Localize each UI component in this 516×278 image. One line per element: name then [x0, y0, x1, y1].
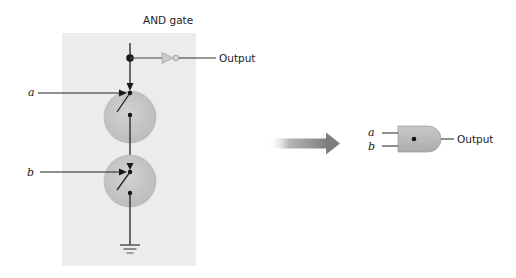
and-gate-diagram: AND gate Output a b	[0, 0, 516, 278]
gate-input-a-label: a	[368, 126, 375, 139]
circuit-panel	[62, 33, 196, 266]
input-a-label: a	[28, 86, 35, 99]
gate-output-label: Output	[457, 133, 493, 145]
input-b-label: b	[27, 166, 34, 179]
and-gate-symbol	[398, 126, 441, 152]
diagram-title: AND gate	[143, 14, 193, 26]
right-arrow-icon	[268, 133, 340, 155]
gate-input-b-label: b	[368, 140, 375, 153]
output-label: Output	[219, 52, 255, 64]
